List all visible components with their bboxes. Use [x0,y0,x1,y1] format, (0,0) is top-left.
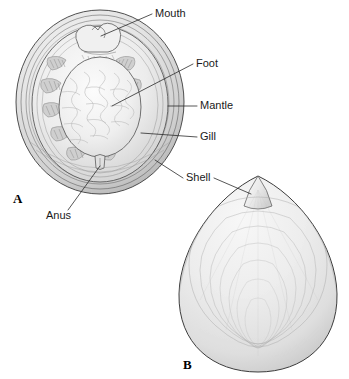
anus-structure [95,155,105,170]
panel-letter-b: B [183,357,192,372]
leader-shell-a [155,160,183,178]
figure-canvas: Mouth Foot Mantle Gill Shell Anus A B [0,0,349,379]
label-anus: Anus [46,209,72,221]
panel-b-illustration [179,176,337,372]
label-shell: Shell [186,171,210,183]
label-foot: Foot [196,57,218,69]
panel-letter-layer: A B [13,191,192,372]
clam-anatomy-figure: Mouth Foot Mantle Gill Shell Anus A B [0,0,349,379]
foot-mass [59,57,141,157]
label-mantle: Mantle [200,99,233,111]
panel-letter-a: A [13,191,23,206]
label-mouth: Mouth [155,7,186,19]
panel-a-illustration [16,10,197,210]
label-gill: Gill [200,130,216,142]
